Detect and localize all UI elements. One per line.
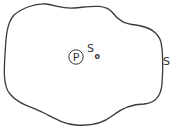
outer-surface-curve [4, 4, 162, 125]
inner-surface-label-main: S [87, 42, 94, 55]
inner-surface-label: S o [87, 42, 101, 61]
diagram-svg: P S o S [0, 0, 172, 132]
outer-surface-label: S [163, 55, 170, 68]
diagram-canvas: P S o S [0, 0, 172, 132]
inner-surface-label-sub: o [95, 52, 101, 61]
inner-point-group: P [69, 50, 83, 64]
point-label-p: P [73, 51, 80, 64]
